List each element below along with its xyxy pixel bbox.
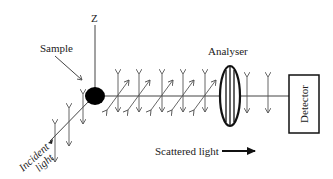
scattered-polarization-arrows (107, 74, 216, 112)
sample-label: Sample (40, 42, 73, 54)
sample-dot (85, 87, 105, 105)
analyser-element (220, 66, 240, 126)
incident-beam-line (50, 98, 92, 141)
incident-polarization-arrows (55, 94, 83, 162)
sample-pointer-arrow (55, 56, 82, 80)
analyser-label: Analyser (208, 45, 248, 57)
detector-label: Detector (298, 85, 310, 123)
analysed-polarization-arrows (247, 77, 268, 113)
incident-beam-tail (48, 139, 53, 144)
incident-light-label: Incident light (16, 140, 60, 179)
scattered-light-label: Scattered light (155, 145, 219, 157)
scattering-setup-diagram: Z Sample Incident light Analyser (0, 0, 333, 179)
z-axis-label: Z (91, 12, 98, 24)
